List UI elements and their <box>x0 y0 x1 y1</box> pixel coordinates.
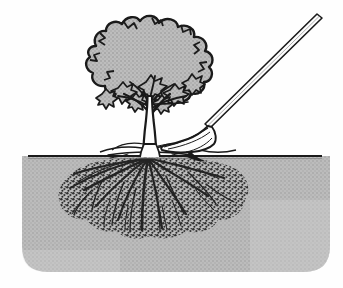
tree-transplant-illustration <box>0 0 343 288</box>
trunk-flare <box>140 144 160 157</box>
soil-fade-left <box>22 250 120 272</box>
soil-fade-right <box>250 200 330 272</box>
illustration-figure: Tree with root system being lifted by a … <box>0 0 343 288</box>
